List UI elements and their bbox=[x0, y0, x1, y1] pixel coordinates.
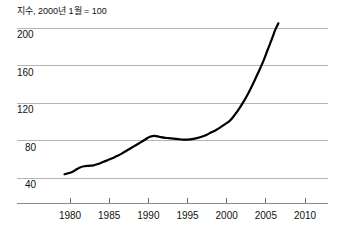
chart-container: 지수, 2000년 1월 = 100 2001601208040 1980198… bbox=[0, 0, 337, 241]
y-axis-tick-label: 160 bbox=[17, 68, 34, 78]
x-axis-tick-label: 2000 bbox=[207, 211, 247, 221]
y-axis-tick-label: 120 bbox=[17, 105, 34, 115]
x-axis-ticks bbox=[70, 198, 305, 203]
x-axis-tick-label: 1980 bbox=[50, 211, 90, 221]
data-series-line bbox=[65, 23, 279, 174]
y-axis-tick-label: 200 bbox=[17, 30, 34, 40]
gridlines bbox=[17, 28, 328, 178]
x-axis-tick-label: 1990 bbox=[128, 211, 168, 221]
x-axis-tick-label: 1985 bbox=[89, 211, 129, 221]
x-axis-tick-label: 2010 bbox=[285, 211, 325, 221]
series-line bbox=[65, 23, 279, 174]
x-axis-tick-label: 2005 bbox=[246, 211, 286, 221]
y-axis-tick-label: 80 bbox=[25, 143, 36, 153]
x-axis-tick-label: 1995 bbox=[168, 211, 208, 221]
chart-plot-area bbox=[0, 0, 337, 241]
y-axis-tick-label: 40 bbox=[25, 180, 36, 190]
